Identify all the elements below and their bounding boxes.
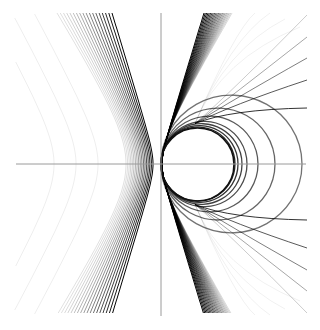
left-hyperbola-family — [57, 13, 153, 313]
curve — [195, 205, 307, 292]
curve — [195, 37, 307, 124]
curve — [162, 13, 216, 313]
right-envelope-family — [162, 13, 232, 313]
plot-area — [0, 0, 320, 330]
curve — [195, 58, 307, 124]
curve — [195, 205, 307, 271]
curve-family-diagram — [0, 0, 320, 330]
